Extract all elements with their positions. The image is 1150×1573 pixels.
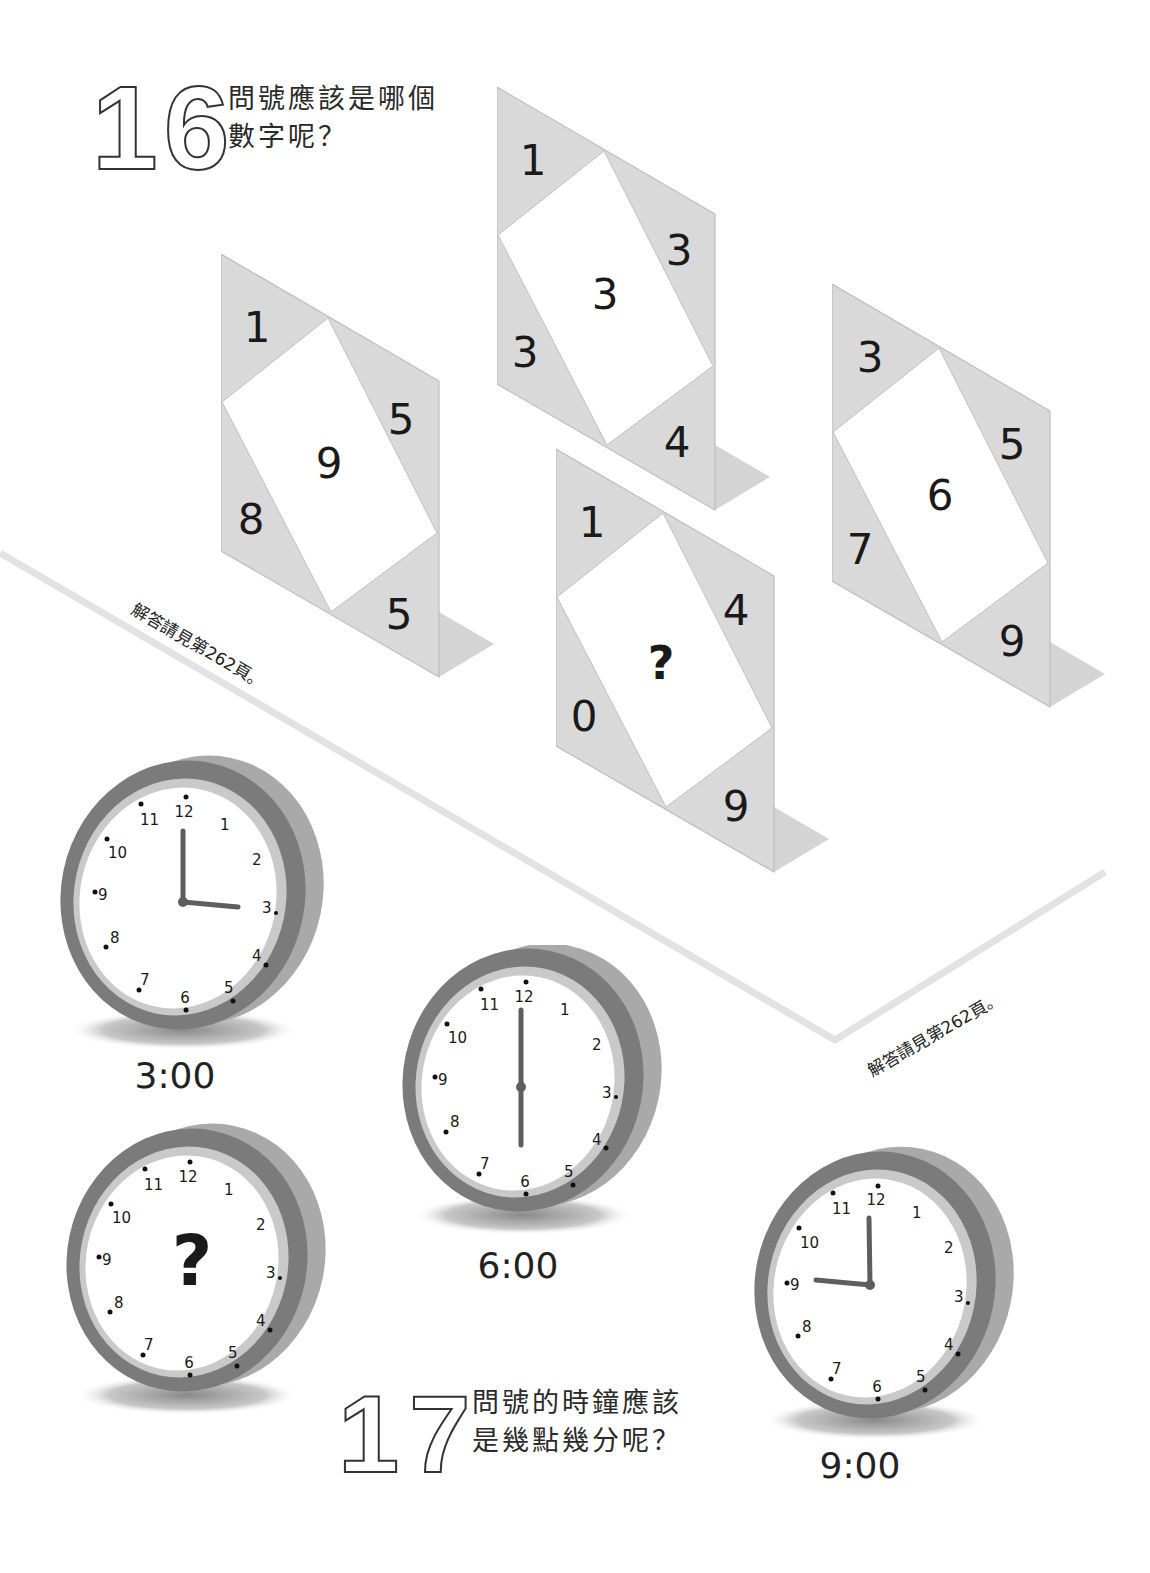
svg-text:4: 4	[944, 1336, 954, 1354]
clock-6-00: 1212345 67891011	[388, 945, 678, 1245]
clock-4-time-label: 9:00	[760, 1445, 960, 1486]
svg-text:1: 1	[560, 1001, 570, 1019]
card-number-bottom-right: 9	[723, 782, 750, 831]
clock-3-00: 1212345 67891011	[48, 755, 338, 1055]
card-number-bottom-right: 9	[999, 617, 1026, 666]
svg-text:10: 10	[800, 1234, 819, 1252]
clock-center	[178, 897, 188, 907]
svg-text:12: 12	[178, 1168, 197, 1186]
card-number-right: 5	[999, 420, 1026, 469]
svg-text:7: 7	[480, 1155, 490, 1173]
svg-text:11: 11	[832, 1200, 851, 1218]
card-number-top-left: 1	[579, 498, 606, 547]
floor-shadow	[774, 807, 829, 872]
svg-text:8: 8	[802, 1318, 812, 1336]
svg-text:5: 5	[228, 1344, 238, 1362]
svg-text:1: 1	[220, 816, 230, 834]
svg-text:4: 4	[256, 1312, 266, 1330]
svg-text:10: 10	[112, 1209, 131, 1227]
svg-text:1: 1	[912, 1204, 922, 1222]
card-number-center: 3	[592, 270, 619, 319]
svg-text:3: 3	[602, 1084, 612, 1102]
clock-center	[865, 1280, 875, 1290]
card-number-top-left: 3	[857, 333, 884, 382]
svg-text:12: 12	[514, 988, 533, 1006]
svg-text:3: 3	[954, 1288, 964, 1306]
card-number-right: 3	[666, 226, 693, 275]
svg-text:6: 6	[872, 1378, 882, 1396]
number-card-3-question: 1 4 ? 0 9	[556, 449, 836, 879]
card-number-bottom-right: 5	[386, 590, 413, 639]
clock-center	[516, 1082, 526, 1092]
svg-text:10: 10	[448, 1029, 467, 1047]
svg-text:8: 8	[110, 929, 120, 947]
svg-text:2: 2	[252, 851, 262, 869]
svg-text:12: 12	[174, 803, 193, 821]
clock-9-00: 1212345 67891011	[735, 1140, 1025, 1440]
puzzle-16-number: 16	[92, 68, 235, 188]
card-number-left: 0	[571, 692, 598, 741]
number-card-1: 1 5 9 8 5	[221, 254, 501, 684]
puzzle-16-question-line2: 數字呢？	[228, 118, 438, 156]
svg-text:9: 9	[790, 1276, 800, 1294]
svg-text:9: 9	[438, 1071, 448, 1089]
svg-text:1: 1	[224, 1181, 234, 1199]
svg-text:11: 11	[144, 1176, 163, 1194]
card-number-left: 8	[238, 495, 265, 544]
svg-text:11: 11	[480, 996, 499, 1014]
svg-text:5: 5	[224, 979, 234, 997]
svg-text:5: 5	[564, 1163, 574, 1181]
card-number-top-left: 1	[520, 136, 547, 185]
svg-text:6: 6	[520, 1173, 530, 1191]
svg-text:9: 9	[102, 1251, 112, 1269]
svg-text:6: 6	[180, 989, 190, 1007]
puzzle-17-question-line1: 問號的時鐘應該	[472, 1384, 682, 1422]
clock-question: 1212345 67891011 ?	[52, 1120, 342, 1420]
card-number-top-left: 1	[244, 303, 271, 352]
question-mark: ?	[648, 636, 675, 690]
svg-text:12: 12	[866, 1191, 885, 1209]
card-number-right: 5	[388, 395, 415, 444]
svg-text:10: 10	[108, 844, 127, 862]
svg-text:8: 8	[450, 1113, 460, 1131]
card-number-right: 4	[723, 586, 750, 635]
floor-shadow	[439, 612, 494, 677]
svg-text:3: 3	[266, 1264, 276, 1282]
svg-text:7: 7	[140, 971, 150, 989]
svg-text:7: 7	[832, 1360, 842, 1378]
number-card-4: 3 5 6 7 9	[832, 284, 1112, 714]
puzzle-17-number: 17	[338, 1378, 480, 1490]
svg-text:2: 2	[256, 1216, 266, 1234]
card-number-left: 3	[512, 328, 539, 377]
svg-text:2: 2	[592, 1036, 602, 1054]
svg-text:8: 8	[114, 1294, 124, 1312]
puzzle-17-question-line2: 是幾點幾分呢？	[472, 1422, 682, 1460]
svg-text:11: 11	[140, 811, 159, 829]
svg-text:4: 4	[252, 947, 262, 965]
card-number-left: 7	[847, 525, 874, 574]
svg-text:9: 9	[98, 886, 108, 904]
svg-text:4: 4	[592, 1131, 602, 1149]
svg-text:5: 5	[916, 1368, 926, 1386]
svg-text:6: 6	[184, 1354, 194, 1372]
minute-hand	[869, 1218, 870, 1285]
question-mark: ?	[172, 1220, 213, 1302]
clock-2-time-label: 6:00	[418, 1245, 618, 1286]
svg-text:3: 3	[262, 899, 272, 917]
card-number-center: 6	[927, 471, 954, 520]
svg-text:2: 2	[944, 1239, 954, 1257]
puzzle-16-question: 問號應該是哪個 數字呢？	[228, 80, 438, 156]
clock-1-time-label: 3:00	[75, 1055, 275, 1096]
puzzle-16-question-line1: 問號應該是哪個	[228, 80, 438, 118]
puzzle-17-question: 問號的時鐘應該 是幾點幾分呢？	[472, 1384, 682, 1460]
floor-shadow	[1050, 642, 1105, 707]
card-number-center: 9	[316, 439, 343, 488]
svg-text:7: 7	[144, 1336, 154, 1354]
